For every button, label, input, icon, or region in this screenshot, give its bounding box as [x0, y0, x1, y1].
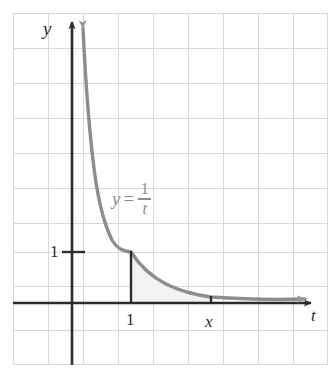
- grid-lines: [13, 13, 328, 365]
- t-axis-tick-label-1: 1: [126, 311, 135, 328]
- equation-relation: =: [123, 189, 138, 208]
- equation-lhs: y: [112, 189, 123, 208]
- t-axis-tick-label-x: x: [205, 313, 213, 330]
- t-axis-label: t: [311, 307, 316, 324]
- graph-canvas: [0, 0, 329, 383]
- equation-fraction: 1 t: [138, 181, 151, 217]
- equation-denominator: t: [140, 200, 148, 217]
- y-axis-label: y: [43, 19, 51, 38]
- curve-equation-label: y = 1 t: [112, 181, 151, 217]
- equation-numerator: 1: [139, 181, 151, 198]
- y-axis-tick-label-1: 1: [50, 243, 59, 260]
- curve-y-equals-one-over-t: [83, 28, 305, 299]
- graph-figure: y t 1 1 x y = 1 t: [0, 0, 329, 383]
